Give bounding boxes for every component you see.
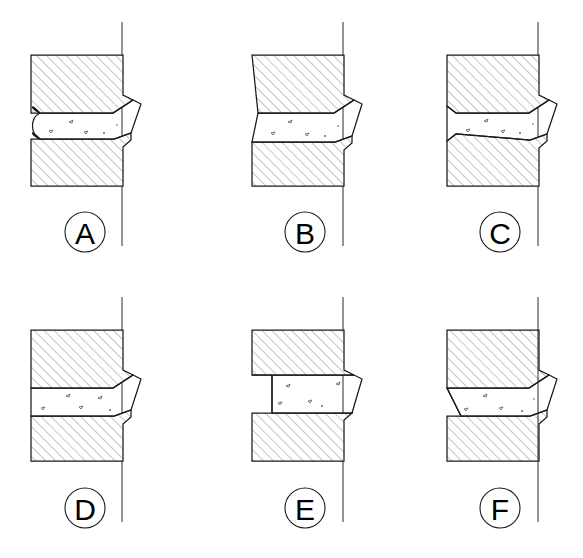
drawing-sheet: A B — [0, 0, 583, 558]
callout-label-c: C — [489, 217, 511, 250]
upper-block-fill-e — [252, 330, 354, 375]
joint-detail-drawing: A B — [0, 0, 583, 558]
upper-block-fill-f — [447, 330, 549, 388]
upper-block-fill-c — [447, 55, 549, 113]
callout-label-b: B — [295, 217, 315, 250]
callout-label-e: E — [295, 493, 315, 526]
lower-block-fill-c — [447, 134, 547, 186]
callout-label-f: F — [491, 493, 509, 526]
lower-block-fill-d — [31, 410, 131, 461]
upper-block-fill-b — [252, 55, 354, 113]
lower-block-fill-a — [31, 133, 130, 186]
lower-block-fill-b — [252, 136, 352, 186]
upper-block-fill-d — [31, 330, 133, 388]
callout-label-d: D — [74, 493, 96, 526]
lower-block-fill-f — [447, 410, 547, 461]
lower-block-fill-e — [252, 413, 352, 461]
upper-block-fill-a — [31, 55, 133, 113]
callout-label-a: A — [75, 217, 95, 250]
